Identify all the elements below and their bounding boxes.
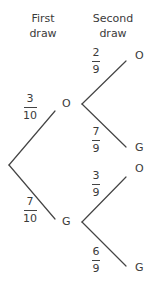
branch-O-G	[82, 104, 126, 147]
branch-G-O	[82, 177, 126, 222]
prob-O-G: 7 9	[91, 126, 101, 155]
tree-branches	[0, 0, 152, 291]
denominator: 9	[93, 263, 100, 275]
branch-G-G	[82, 222, 126, 266]
numerator: 7	[27, 196, 34, 208]
fraction-bar	[24, 107, 37, 108]
numerator: 3	[27, 93, 34, 105]
denominator: 9	[93, 64, 100, 76]
outcome-first-O: O	[62, 97, 71, 110]
numerator: 2	[93, 47, 100, 59]
header-second-draw: Second draw	[86, 11, 140, 41]
numerator: 7	[93, 126, 100, 138]
prob-O-O: 2 9	[91, 47, 101, 76]
fraction-bar	[24, 210, 37, 211]
prob-G-G: 6 9	[91, 246, 101, 275]
prob-first-G: 7 10	[23, 196, 37, 225]
numerator: 6	[93, 246, 100, 258]
header-second-line1: Second	[86, 11, 140, 26]
denominator: 9	[93, 187, 100, 199]
header-first-line1: First	[20, 11, 66, 26]
denominator: 10	[23, 213, 37, 225]
denominator: 9	[93, 143, 100, 155]
fraction-bar	[92, 184, 100, 185]
numerator: 3	[93, 170, 100, 182]
outcome-G-G: G	[135, 261, 144, 274]
header-first-draw: First draw	[20, 11, 66, 41]
outcome-G-O: O	[135, 162, 144, 175]
fraction-bar	[92, 61, 100, 62]
header-second-line2: draw	[86, 26, 140, 41]
outcome-O-O: O	[135, 49, 144, 62]
outcome-O-G: G	[135, 141, 144, 154]
prob-G-O: 3 9	[91, 170, 101, 199]
header-first-line2: draw	[20, 26, 66, 41]
fraction-bar	[92, 260, 100, 261]
denominator: 10	[23, 110, 37, 122]
outcome-first-G: G	[62, 215, 71, 228]
fraction-bar	[92, 140, 100, 141]
prob-first-O: 3 10	[23, 93, 37, 122]
branch-O-O	[82, 61, 126, 104]
